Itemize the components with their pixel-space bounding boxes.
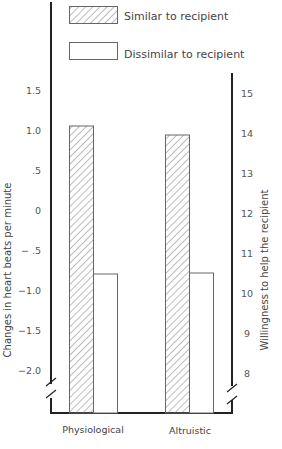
right-tick-label: 8 bbox=[244, 368, 250, 379]
legend-label-dissimilar: Dissimilar to recipient bbox=[124, 48, 245, 61]
left-tick-label: − .5 bbox=[21, 245, 41, 256]
legend-swatch-similar bbox=[70, 7, 118, 24]
legend: Similar to recipient Dissimilar to recip… bbox=[70, 7, 246, 62]
right-tick-label: 15 bbox=[241, 88, 253, 99]
bar-physiological-dissimilar bbox=[94, 274, 118, 413]
right-tick-label: 14 bbox=[241, 128, 253, 139]
right-tick-label: 10 bbox=[241, 288, 253, 299]
bar-chart: Similar to recipient Dissimilar to recip… bbox=[0, 0, 282, 449]
bar-altruistic-similar bbox=[166, 135, 190, 413]
legend-label-similar: Similar to recipient bbox=[124, 10, 229, 23]
right-tick-label: 11 bbox=[241, 248, 253, 259]
left-tick-label: −1.5 bbox=[18, 325, 41, 336]
bar-physiological-similar bbox=[70, 126, 94, 413]
category-label-physiological: Physiological bbox=[62, 424, 124, 435]
left-tick-label: .5 bbox=[32, 165, 41, 176]
left-tick-label: 1.5 bbox=[26, 85, 41, 96]
left-tick-label: 1.0 bbox=[26, 125, 41, 136]
right-tick-label: 12 bbox=[241, 208, 253, 219]
bar-altruistic-dissimilar bbox=[190, 273, 214, 413]
left-tick-label: 0 bbox=[35, 205, 41, 216]
left-axis: 1.51.0.50− .5−1.0−1.5−2.0 Changes in hea… bbox=[2, 2, 56, 413]
right-tick-label: 13 bbox=[241, 168, 253, 179]
right-axis: 15141312111098 Willingness to help the r… bbox=[227, 73, 270, 413]
left-axis-title: Changes in heart beats per minute bbox=[2, 183, 13, 358]
legend-swatch-dissimilar bbox=[70, 43, 118, 60]
right-tick-label: 9 bbox=[244, 328, 250, 339]
bars bbox=[70, 126, 214, 413]
left-tick-label: −2.0 bbox=[18, 365, 41, 376]
left-tick-label: −1.0 bbox=[18, 285, 41, 296]
right-axis-title: Willingness to help the recipient bbox=[259, 189, 270, 350]
category-label-altruistic: Altruistic bbox=[169, 425, 211, 436]
